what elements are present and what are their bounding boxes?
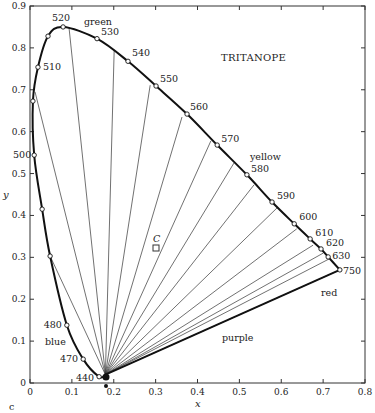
wavelength-label-590: 590 xyxy=(277,190,295,201)
wavelength-label-560: 560 xyxy=(190,101,208,112)
chart-title: TRITANOPE xyxy=(221,52,286,63)
x-tick-label: 0 xyxy=(27,387,33,397)
x-tick-label: 0.7 xyxy=(316,387,331,397)
wavelength-label-510: 510 xyxy=(43,61,61,72)
wavelength-label-600: 600 xyxy=(299,211,317,222)
wavelength-label-630: 630 xyxy=(332,250,350,261)
wavelength-label-570: 570 xyxy=(221,133,239,144)
region-label-green: green xyxy=(84,16,112,27)
white-point-c: C xyxy=(153,233,161,251)
region-label-blue: blue xyxy=(45,336,66,347)
y-tick-label: 0.6 xyxy=(12,127,27,137)
x-tick-label: 0.5 xyxy=(232,387,247,397)
y-tick-label: 0.1 xyxy=(12,336,26,346)
x-tick-label: 0.1 xyxy=(65,387,79,397)
wavelength-label-470: 470 xyxy=(60,353,78,364)
y-axis-title: y xyxy=(2,189,9,200)
x-tick-label: 0.4 xyxy=(190,387,205,397)
wavelength-label-520: 520 xyxy=(52,12,70,23)
panel-label: c xyxy=(9,401,14,412)
region-label-yellow: yellow xyxy=(249,151,281,162)
x-tick-label: 0.8 xyxy=(358,387,373,397)
x-tick-label: 0.3 xyxy=(148,387,163,397)
chromaticity-diagram: 00.10.20.30.40.50.60.70.8 00.10.20.30.40… xyxy=(0,0,375,413)
region-label-red: red xyxy=(321,287,337,298)
y-tick-label: 0.3 xyxy=(12,252,27,262)
y-tick-label: 0.8 xyxy=(12,43,27,53)
x-tick-label: 0.6 xyxy=(274,387,289,397)
x-axis-ticks: 00.10.20.30.40.50.60.70.8 xyxy=(27,6,372,397)
y-tick-label: 0.9 xyxy=(12,1,27,11)
wavelength-label-480: 480 xyxy=(44,319,62,330)
y-tick-label: 0.7 xyxy=(12,85,27,95)
wavelength-label-500: 500 xyxy=(13,149,31,160)
wavelength-markers xyxy=(31,25,342,379)
y-tick-label: 0.4 xyxy=(12,210,27,220)
wavelength-label-750: 750 xyxy=(343,265,361,276)
white-point-label: C xyxy=(153,233,161,244)
x-tick-label: 0.2 xyxy=(107,387,121,397)
spectrum-locus xyxy=(33,27,340,378)
wavelength-label-530: 530 xyxy=(101,26,119,37)
plot-frame xyxy=(30,6,365,383)
wavelength-label-540: 540 xyxy=(132,47,150,58)
wavelength-label-550: 550 xyxy=(160,73,178,84)
y-tick-label: 0.2 xyxy=(12,294,26,304)
wavelength-label-440: 440 xyxy=(76,372,94,383)
y-tick-label: 0.5 xyxy=(12,169,27,179)
wavelength-label-580: 580 xyxy=(251,163,269,174)
x-axis-title: x xyxy=(195,398,201,409)
copunctal-point xyxy=(103,374,110,389)
y-axis-ticks: 00.10.20.30.40.50.60.70.80.9 xyxy=(12,1,365,388)
region-label-purple: purple xyxy=(222,332,254,343)
wavelength-label-620: 620 xyxy=(326,237,344,248)
y-tick-label: 0 xyxy=(20,378,26,388)
